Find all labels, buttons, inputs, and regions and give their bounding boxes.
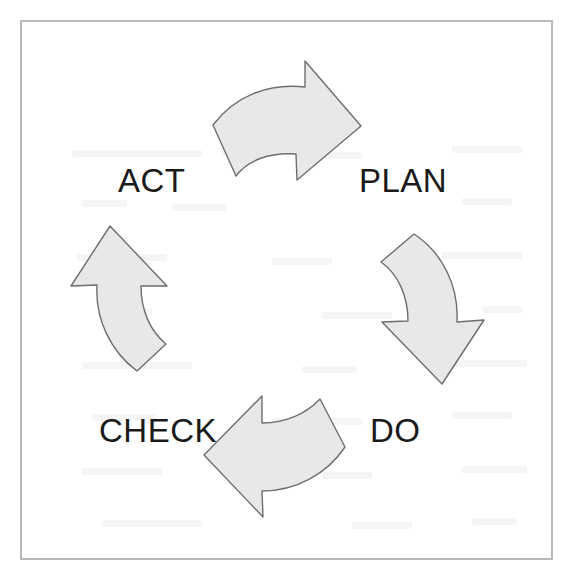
arrow-right-down-icon [381, 234, 484, 384]
arrow-left-up-icon [71, 226, 167, 371]
stage-label-act: ACT [118, 164, 186, 197]
arrow-top-right-icon [213, 61, 361, 180]
stage-label-plan: PLAN [359, 164, 447, 197]
pdca-arrow-group [0, 0, 573, 581]
arrow-bottom-left-icon [204, 396, 345, 517]
stage-label-check: CHECK [99, 414, 217, 447]
pdca-diagram-page: ACT PLAN CHECK DO [0, 0, 573, 581]
stage-label-do: DO [370, 414, 421, 447]
